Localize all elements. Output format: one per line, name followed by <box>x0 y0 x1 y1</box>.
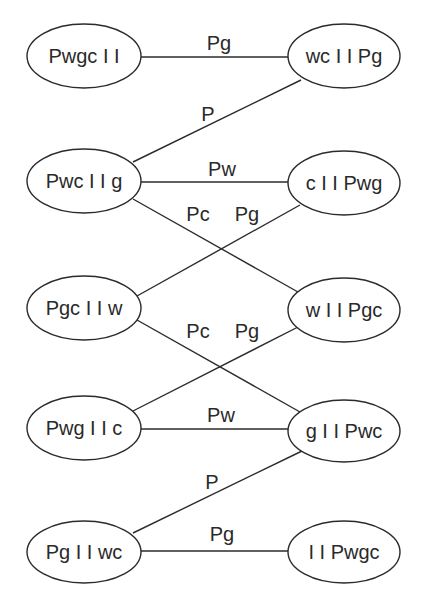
edge-label-n9-n10: Pg <box>210 523 234 545</box>
state-label: I I Pwgc <box>308 541 379 563</box>
edge-label-n7-n6: Pg <box>235 320 259 342</box>
edge-n5-n8 <box>137 320 300 412</box>
state-node-n1: Pwgc I I <box>27 24 141 88</box>
state-node-n9: Pg I I wc <box>27 521 141 583</box>
state-label: c I I Pwg <box>306 172 383 194</box>
state-label: Pwgc I I <box>48 45 119 67</box>
state-node-n4: c I I Pwg <box>288 151 400 215</box>
state-label: Pgc I I w <box>46 297 123 319</box>
state-label: Pg I I wc <box>46 541 123 563</box>
state-label: wc I I Pg <box>305 45 383 67</box>
state-node-n2: wc I I Pg <box>288 24 400 88</box>
state-node-n3: Pwc I I g <box>27 149 141 213</box>
state-label: Pwc I I g <box>46 170 123 192</box>
state-node-n8: g I I Pwc <box>288 400 400 462</box>
edge-label-n3-n6: Pc <box>186 203 209 225</box>
edge-n5-n4 <box>137 205 300 296</box>
edge-label-n1-n2: Pg <box>207 32 231 54</box>
edge-label-n9-n8: P <box>205 471 218 493</box>
edge-label-n5-n4: Pg <box>235 203 259 225</box>
state-label: g I I Pwc <box>306 420 383 442</box>
edge-label-n7-n8: Pw <box>207 404 235 426</box>
edge-label-n3-n4: Pw <box>208 158 236 180</box>
state-node-n10: I I Pwgc <box>288 521 400 583</box>
edge-label-n5-n8: Pc <box>186 320 209 342</box>
edge-n3-n6 <box>133 199 298 292</box>
edge-label-n3-n2: P <box>201 103 214 125</box>
state-graph: Pg P Pw Pc Pg Pc Pg Pw P Pg Pwgc I I wc … <box>0 0 426 607</box>
state-node-n7: Pwg I I c <box>27 396 141 460</box>
edge-n3-n2 <box>133 80 301 162</box>
state-node-n6: w I I Pgc <box>288 278 400 342</box>
state-label: w I I Pgc <box>305 299 383 321</box>
state-node-n5: Pgc I I w <box>27 276 141 340</box>
state-label: Pwg I I c <box>46 417 123 439</box>
edge-n7-n6 <box>133 327 298 411</box>
